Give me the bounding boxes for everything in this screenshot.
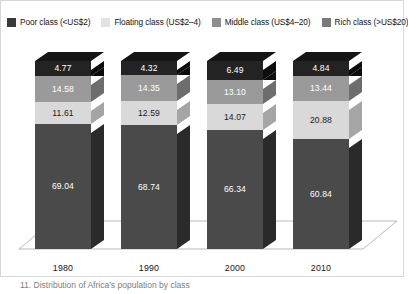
bar-value-label: 12.59: [138, 109, 160, 118]
legend-swatch-icon: [7, 18, 16, 27]
bar-group-2010[interactable]: 4.84 13.44 20.88 60.84: [293, 61, 349, 249]
bar-top-face-3d: [207, 52, 263, 61]
bar-segment-middle[interactable]: 14.58: [35, 76, 91, 102]
legend-label: Floating class (US$2–4): [114, 18, 200, 26]
bar-side-face-3d: [349, 101, 362, 139]
bar-segment-poor[interactable]: 68.74: [121, 125, 177, 249]
legend-swatch-icon: [322, 18, 331, 27]
bar-value-label: 14.35: [138, 84, 160, 93]
bar-value-label: 11.61: [52, 109, 73, 118]
x-axis-label-2000: 2000: [207, 263, 263, 273]
chart-legend: Poor class (<US$2) Floating class (US$2–…: [7, 15, 399, 29]
bar-top-face-3d: [121, 52, 177, 61]
bar-stack: 4.77 14.58 11.61 69.04: [35, 61, 91, 249]
bar-value-label: 66.34: [224, 185, 246, 194]
bar-segment-poor[interactable]: 69.04: [35, 124, 91, 249]
bar-side-face-3d: [349, 76, 362, 101]
bar-group-1980[interactable]: 4.77 14.58 11.61 69.04: [35, 61, 91, 249]
figure-caption: 11. Distribution of Africa’s population …: [20, 281, 400, 292]
legend-label: Rich class (>US$20): [335, 18, 408, 26]
x-axis-label-1980: 1980: [35, 263, 91, 273]
bar-value-label: 4.77: [54, 64, 71, 73]
bar-stack: 6.49 13.10 14.07 66.34: [207, 61, 263, 249]
bar-side-face-3d: [91, 102, 104, 124]
bar-value-label: 68.74: [138, 183, 160, 192]
bar-value-label: 14.58: [52, 85, 74, 94]
bar-value-label: 4.32: [140, 64, 157, 73]
bar-side-face-3d: [263, 80, 276, 104]
bar-segment-rich[interactable]: 4.84: [293, 61, 349, 76]
legend-item-middle-class[interactable]: Middle class (US$4–20): [212, 18, 311, 27]
bar-side-face-3d: [177, 125, 190, 249]
bar-value-label: 6.49: [226, 66, 243, 75]
bar-segment-poor[interactable]: 66.34: [207, 130, 263, 249]
bar-segment-floating[interactable]: 20.88: [293, 101, 349, 139]
legend-item-poor-class[interactable]: Poor class (<US$2): [7, 18, 90, 27]
bar-group-2000[interactable]: 6.49 13.10 14.07 66.34: [207, 61, 263, 249]
bar-side-face-3d: [263, 104, 276, 130]
bar-side-face-3d: [177, 61, 190, 75]
bar-side-face-3d: [177, 75, 190, 101]
legend-swatch-icon: [212, 18, 221, 27]
bar-segment-middle[interactable]: 13.44: [293, 76, 349, 101]
bar-segment-floating[interactable]: 14.07: [207, 104, 263, 130]
legend-item-floating-class[interactable]: Floating class (US$2–4): [101, 18, 200, 27]
bar-value-label: 4.84: [312, 64, 329, 73]
bar-value-label: 20.88: [310, 116, 332, 125]
bar-value-label: 60.84: [310, 190, 332, 199]
legend-label: Middle class (US$4–20): [225, 18, 311, 26]
chart-container: Poor class (<US$2) Floating class (US$2–…: [0, 0, 404, 277]
bar-side-face-3d: [91, 76, 104, 102]
chart-plot-area: 4.77 14.58 11.61 69.04 1980: [1, 31, 405, 277]
bar-top-face-3d: [293, 52, 349, 61]
bar-side-face-3d: [349, 139, 362, 249]
bar-stack: 4.32 14.35 12.59 68.74: [121, 61, 177, 249]
bar-segment-rich[interactable]: 6.49: [207, 61, 263, 80]
bar-side-face-3d: [177, 101, 190, 125]
bar-side-face-3d: [91, 61, 104, 76]
bar-side-face-3d: [349, 61, 362, 76]
legend-item-rich-class[interactable]: Rich class (>US$20): [322, 18, 408, 27]
bar-value-label: 69.04: [52, 182, 74, 191]
bar-side-face-3d: [91, 124, 104, 249]
bar-side-face-3d: [263, 61, 276, 80]
bar-segment-rich[interactable]: 4.32: [121, 61, 177, 75]
bar-top-face-3d: [35, 52, 91, 61]
bar-segment-middle[interactable]: 14.35: [121, 75, 177, 101]
bar-segment-rich[interactable]: 4.77: [35, 61, 91, 76]
bar-segment-middle[interactable]: 13.10: [207, 80, 263, 104]
legend-label: Poor class (<US$2): [20, 18, 90, 26]
x-axis-label-1990: 1990: [121, 263, 177, 273]
legend-swatch-icon: [101, 18, 110, 27]
bar-side-face-3d: [263, 130, 276, 249]
bar-stack: 4.84 13.44 20.88 60.84: [293, 61, 349, 249]
bar-value-label: 13.10: [224, 88, 246, 97]
bar-group-1990[interactable]: 4.32 14.35 12.59 68.74: [121, 61, 177, 249]
bar-value-label: 13.44: [310, 84, 332, 93]
bar-segment-floating[interactable]: 11.61: [35, 102, 91, 124]
x-axis-label-2010: 2010: [293, 263, 349, 273]
bar-value-label: 14.07: [224, 113, 246, 122]
bar-segment-floating[interactable]: 12.59: [121, 101, 177, 125]
bar-segment-poor[interactable]: 60.84: [293, 139, 349, 249]
